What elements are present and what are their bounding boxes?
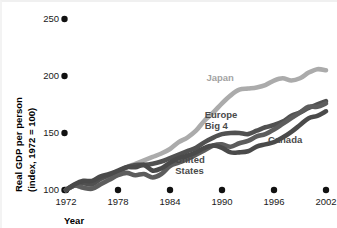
x-axis-tick-label: 1984 — [159, 196, 180, 207]
y-axis-tick-marker — [61, 130, 67, 136]
y-axis-title: Real GDP per person (index, 1972 = 100) — [13, 97, 37, 192]
series-label-united-states: States — [175, 165, 204, 176]
y-axis-tick-marker — [61, 73, 67, 79]
x-axis-tick-label: 1990 — [211, 196, 232, 207]
series-label-canada: Canada — [268, 134, 303, 145]
x-axis-tick-label: 2002 — [315, 196, 336, 207]
x-axis-tick-label: 1972 — [55, 196, 76, 207]
y-axis-tick-marker — [61, 16, 67, 22]
x-axis-title: Year — [64, 215, 84, 226]
line-chart: 100150200250 197219781984199019962002 Ja… — [2, 2, 337, 228]
x-axis-tick-marker — [115, 187, 121, 193]
y-axis-title-line1: Real GDP per person — [13, 97, 24, 192]
y-axis-tick-label: 100 — [43, 184, 59, 195]
series-label-japan: Japan — [206, 72, 234, 83]
y-axis-tick-label: 250 — [43, 13, 59, 24]
series-label-europe-big-4: Europe — [205, 109, 238, 120]
x-axis-tick-label: 1978 — [107, 196, 128, 207]
y-axis-tick-label: 150 — [43, 127, 59, 138]
x-axis-tick-label: 1996 — [263, 196, 284, 207]
x-axis-tick-marker — [323, 187, 329, 193]
x-axis-tick-marker — [219, 187, 225, 193]
y-axis-title-line2: (index, 1972 = 100) — [26, 108, 37, 192]
chart-figure: 100150200250 197219781984199019962002 Ja… — [0, 0, 337, 228]
x-axis-tick-marker — [167, 187, 173, 193]
x-axis-tick-group: 197219781984199019962002 — [55, 187, 336, 207]
series-label-united-states: United — [175, 154, 205, 165]
y-axis-tick-group: 100150200250 — [43, 13, 68, 195]
series-label-europe-big-4: Big 4 — [205, 120, 229, 131]
y-axis-tick-label: 200 — [43, 70, 59, 81]
x-axis-tick-marker — [271, 187, 277, 193]
